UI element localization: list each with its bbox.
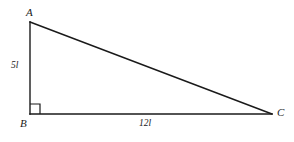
vertex-label-c: C bbox=[277, 107, 284, 118]
vertex-label-a: A bbox=[26, 7, 33, 18]
geometry-figure: A B C 5l 12l bbox=[0, 0, 294, 142]
right-angle-marker bbox=[30, 104, 40, 114]
side-length-label-bc: 12l bbox=[139, 119, 151, 129]
vertex-label-b: B bbox=[20, 118, 27, 129]
side-length-label-ab: 5l bbox=[11, 61, 18, 71]
side-ac-hypotenuse-line bbox=[30, 22, 272, 114]
